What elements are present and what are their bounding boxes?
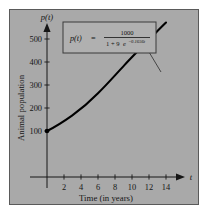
xtick-label-8: 8 [113,183,117,192]
xtick-label-10: 10 [128,183,136,192]
figure-container: 2 4 6 8 10 12 14 100 200 300 400 500 p(t… [0,0,208,215]
xtick-label-14: 14 [162,183,171,192]
equation-lhs: p(t) [69,34,82,43]
y-axis [43,23,50,188]
x-axis [30,173,185,180]
xtick-label-6: 6 [96,183,100,192]
ytick-label-300: 300 [29,81,42,90]
equation-equals: = [91,34,96,43]
equation-box: p(t) = 1000 1 + 9 e −0.1656t [63,22,156,53]
leader-line [149,52,161,72]
x-axis-title: Time (in years) [79,193,133,203]
ytick-label-200: 200 [29,104,42,113]
xtick-label-2: 2 [62,183,66,192]
equation-denominator-head: 1 + 9 [106,40,120,47]
equation-numerator: 1000 [120,29,134,36]
plot-panel: 2 4 6 8 10 12 14 100 200 300 400 500 p(t… [9,9,199,205]
initial-point-marker [45,129,50,134]
y-axis-symbol: p(t) [40,12,54,22]
ytick-label-400: 400 [29,58,42,67]
ytick-label-500: 500 [29,35,42,44]
plot-svg: 2 4 6 8 10 12 14 100 200 300 400 500 p(t… [10,10,198,204]
y-axis-title: Animal population [16,74,26,141]
xtick-label-12: 12 [145,183,153,192]
equation-denominator-base: e [123,40,126,47]
equation-denominator-exponent: −0.1656t [128,39,146,44]
xtick-label-4: 4 [79,183,84,192]
ytick-label-100: 100 [29,127,42,136]
x-axis-symbol: t [190,172,193,182]
